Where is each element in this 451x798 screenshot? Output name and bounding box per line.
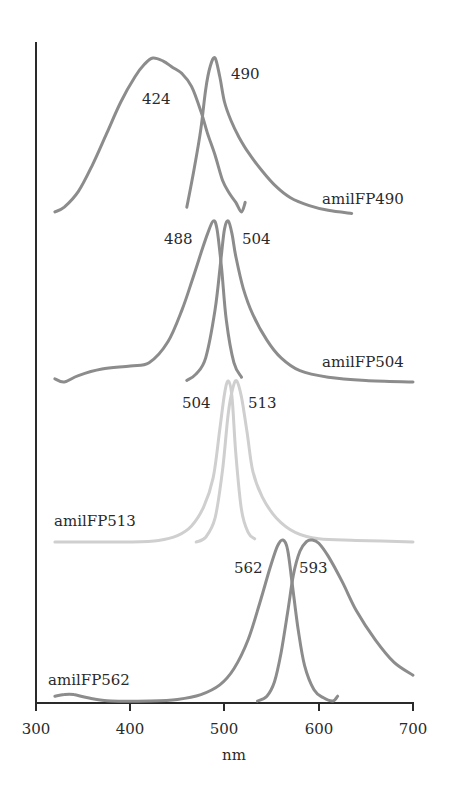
x-axis-ticks bbox=[36, 703, 413, 711]
spectra-curves bbox=[55, 58, 413, 702]
series-label-amilfp504: amilFP504 bbox=[322, 353, 404, 371]
peak-label-593: 593 bbox=[299, 559, 328, 577]
tick-400: 400 bbox=[116, 720, 145, 738]
amilfp504-excitation-curve bbox=[55, 221, 242, 382]
x-axis-tick-labels: 300 400 500 600 700 bbox=[22, 720, 428, 738]
x-axis-label: nm bbox=[222, 746, 246, 764]
tick-500: 500 bbox=[210, 720, 239, 738]
peak-label-424: 424 bbox=[142, 90, 171, 108]
peak-label-504-a: 504 bbox=[242, 230, 271, 248]
peak-label-513: 513 bbox=[248, 394, 277, 412]
spectra-chart: 300 400 500 600 700 nm amilFP490 amilFP5… bbox=[0, 0, 451, 798]
tick-700: 700 bbox=[399, 720, 428, 738]
peak-label-490: 490 bbox=[231, 65, 260, 83]
amilfp490-excitation-curve bbox=[55, 58, 245, 212]
amilfp562-emission-curve bbox=[258, 540, 414, 701]
tick-300: 300 bbox=[22, 720, 51, 738]
series-label-amilfp513: amilFP513 bbox=[54, 512, 136, 530]
series-label-amilfp562: amilFP562 bbox=[48, 671, 130, 689]
amilfp513-emission-curve bbox=[196, 381, 413, 542]
peak-label-488: 488 bbox=[164, 230, 193, 248]
series-label-amilfp490: amilFP490 bbox=[322, 190, 404, 208]
tick-600: 600 bbox=[305, 720, 334, 738]
peak-label-562: 562 bbox=[234, 559, 263, 577]
peak-label-504-b: 504 bbox=[182, 394, 211, 412]
